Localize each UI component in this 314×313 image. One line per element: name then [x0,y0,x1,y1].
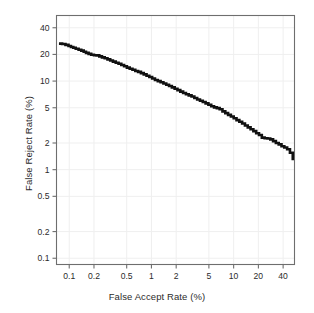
svg-text:0.2: 0.2 [88,271,100,281]
y-axis-title: False Reject Rate (%) [23,64,34,224]
axis-tick-labels: 0.10.20.51251020400.10.20.5125102040 [38,23,289,281]
x-axis-title: False Accept Rate (%) [0,291,314,302]
svg-text:40: 40 [278,271,288,281]
svg-text:20: 20 [254,271,264,281]
svg-text:2: 2 [45,138,50,148]
svg-text:1: 1 [149,271,154,281]
svg-text:0.1: 0.1 [63,271,75,281]
svg-text:10: 10 [229,271,239,281]
det-curve-figure: 0.10.20.51251020400.10.20.5125102040 Fal… [0,0,314,313]
svg-text:2: 2 [174,271,179,281]
svg-text:10: 10 [40,76,50,86]
svg-text:0.5: 0.5 [121,271,133,281]
svg-text:20: 20 [40,49,50,59]
svg-text:5: 5 [206,271,211,281]
svg-text:0.5: 0.5 [38,191,50,201]
svg-text:1: 1 [45,165,50,175]
axis-ticks [53,28,284,269]
svg-text:0.1: 0.1 [38,253,50,263]
svg-text:0.2: 0.2 [38,227,50,237]
svg-text:5: 5 [45,103,50,113]
svg-text:40: 40 [40,23,50,33]
plot-area: 0.10.20.51251020400.10.20.5125102040 [0,0,314,313]
